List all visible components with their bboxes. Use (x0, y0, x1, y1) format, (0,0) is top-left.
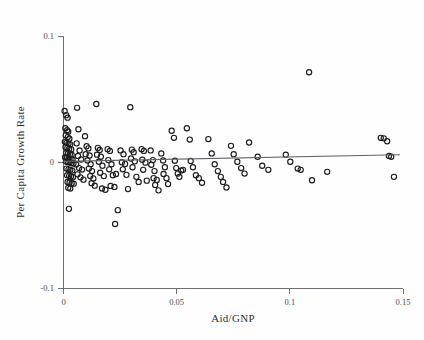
data-point (153, 182, 158, 187)
data-point (239, 165, 244, 170)
data-point (136, 179, 141, 184)
data-point (309, 178, 314, 183)
data-point (134, 174, 139, 179)
data-point (77, 148, 82, 153)
data-point (190, 165, 195, 170)
x-tick-label: 0.05 (169, 297, 184, 307)
data-point (103, 187, 108, 192)
data-point (199, 180, 204, 185)
data-point (391, 174, 396, 179)
data-point (149, 162, 154, 167)
data-point (141, 167, 146, 172)
data-point (162, 165, 167, 170)
data-point (242, 171, 247, 176)
data-point (156, 188, 161, 193)
y-axis-ticks: 0.10-0.1 (41, 31, 64, 293)
data-point (94, 101, 99, 106)
data-point (110, 173, 115, 178)
data-point (120, 167, 125, 172)
data-point (385, 139, 390, 144)
y-tick-label: 0.1 (43, 31, 54, 41)
data-point (113, 221, 118, 226)
data-points-layer (62, 70, 397, 227)
x-tick-label: 0.1 (285, 297, 296, 307)
data-point (148, 148, 153, 153)
data-point (100, 163, 105, 168)
data-point (160, 158, 165, 163)
data-point (228, 143, 233, 148)
data-point (109, 162, 114, 167)
y-tick-label: -0.1 (41, 283, 54, 293)
data-point (66, 206, 71, 211)
data-point (246, 140, 251, 145)
data-point (113, 171, 118, 176)
data-point (75, 172, 80, 177)
data-point (235, 159, 240, 164)
scatter-plot-figure: 0.10-0.1 00.050.10.15 Aid/GNP Per Capita… (0, 0, 424, 340)
data-point (174, 165, 179, 170)
data-point (171, 135, 176, 140)
data-point (231, 152, 236, 157)
data-point (206, 136, 211, 141)
data-point (266, 167, 271, 172)
data-point (184, 126, 189, 131)
data-point (101, 174, 106, 179)
data-point (82, 134, 87, 139)
data-point (74, 105, 79, 110)
data-point (218, 174, 223, 179)
data-point (121, 152, 126, 157)
data-point (144, 178, 149, 183)
data-point (76, 127, 81, 132)
plot-canvas: 0.10-0.1 00.050.10.15 Aid/GNP Per Capita… (0, 0, 424, 340)
data-point (224, 185, 229, 190)
data-point (128, 105, 133, 110)
data-point (143, 160, 148, 165)
data-point (306, 70, 311, 75)
data-point (255, 154, 260, 159)
data-point (124, 172, 129, 177)
data-point (325, 169, 330, 174)
y-tick-label: 0 (50, 157, 54, 167)
data-point (212, 162, 217, 167)
y-axis-title: Per Capita Growth Rate (14, 106, 26, 218)
data-point (115, 208, 120, 213)
data-point (130, 165, 135, 170)
data-point (74, 141, 79, 146)
x-tick-label: 0.15 (396, 297, 411, 307)
data-point (215, 168, 220, 173)
data-point (152, 168, 157, 173)
data-point (165, 181, 170, 186)
x-axis-ticks: 00.050.10.15 (61, 289, 410, 308)
data-point (260, 163, 265, 168)
data-point (99, 186, 104, 191)
data-point (107, 167, 112, 172)
data-point (164, 176, 169, 181)
data-point (125, 186, 130, 191)
x-axis-title: Aid/GNP (211, 312, 255, 324)
data-point (187, 137, 192, 142)
data-point (159, 151, 164, 156)
data-point (169, 128, 174, 133)
data-point (288, 159, 293, 164)
data-point (220, 179, 225, 184)
x-tick-label: 0 (61, 297, 65, 307)
data-point (209, 151, 214, 156)
